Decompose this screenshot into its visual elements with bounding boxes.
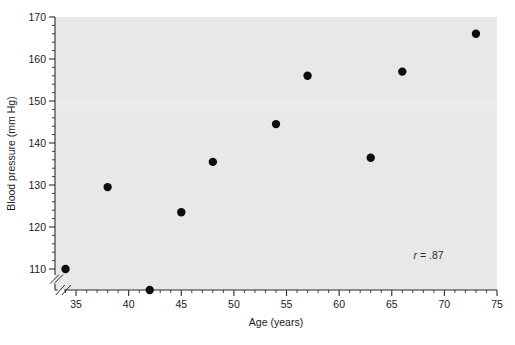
x-axis-tick-label: 45	[175, 298, 187, 310]
plot-background-band	[55, 99, 497, 112]
x-axis-title: Age (years)	[249, 316, 303, 328]
y-axis-tick-label: 120	[28, 221, 46, 233]
x-axis-tick-label: 50	[228, 298, 240, 310]
y-axis-tick-label: 150	[28, 95, 46, 107]
data-point	[398, 67, 406, 75]
y-axis-tick-label: 140	[28, 137, 46, 149]
data-point	[146, 286, 154, 294]
data-point	[303, 72, 311, 80]
chart-canvas: 110120130140150160170354045505560657075A…	[0, 0, 515, 345]
correlation-annotation: r = .87	[414, 249, 444, 261]
data-point	[367, 154, 375, 162]
x-axis-tick-label: 65	[386, 298, 398, 310]
data-point	[103, 183, 111, 191]
y-axis-tick-label: 160	[28, 53, 46, 65]
x-axis-tick-label: 55	[281, 298, 293, 310]
y-axis-title: Blood pressure (mm Hg)	[5, 96, 17, 210]
x-axis-tick-label: 35	[70, 298, 82, 310]
data-point	[272, 120, 280, 128]
x-axis-tick-label: 70	[439, 298, 451, 310]
y-axis-tick-label: 170	[28, 11, 46, 23]
data-point	[472, 30, 480, 38]
scatter-plot-figure: 110120130140150160170354045505560657075A…	[0, 0, 515, 345]
x-axis-tick-label: 60	[333, 298, 345, 310]
correlation-value: = .87	[417, 249, 444, 261]
data-point	[61, 265, 69, 273]
y-axis-tick-label: 110	[29, 263, 46, 275]
data-point	[209, 158, 217, 166]
data-point	[177, 208, 185, 216]
x-axis-tick-label: 75	[491, 298, 503, 310]
y-axis-tick-label: 130	[28, 179, 46, 191]
x-axis-tick-label: 40	[123, 298, 135, 310]
